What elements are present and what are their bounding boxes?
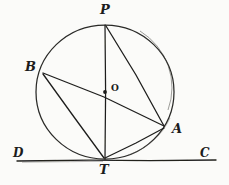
segment-t-a: [105, 128, 164, 158]
center-label-o: O: [111, 84, 119, 93]
center-point-dot: [103, 90, 107, 94]
circle-overdraw-arc: [140, 31, 172, 110]
segment-p-a: [106, 26, 164, 126]
tangent-point-label-t: T: [99, 163, 109, 176]
vertex-label-b: B: [25, 60, 36, 73]
geometry-figure: P B O A D C T: [0, 0, 229, 185]
tangent-line-group: [17, 160, 216, 162]
tangent-line-dc: [17, 160, 216, 161]
segment-b-t: [43, 74, 104, 158]
vertex-label-a: A: [172, 122, 182, 135]
vertex-label-p: P: [100, 3, 110, 16]
tangent-endpoint-label-c: C: [200, 147, 210, 159]
tangent-endpoint-label-d: D: [13, 147, 23, 159]
